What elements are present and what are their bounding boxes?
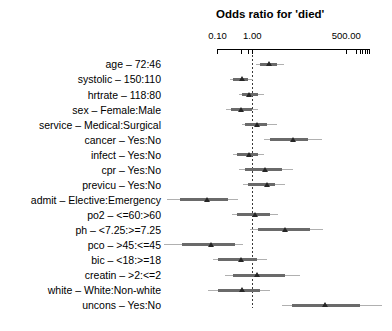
estimate-marker bbox=[246, 152, 252, 157]
row-label: cpr – Yes:No bbox=[0, 164, 161, 176]
axis-tick bbox=[252, 49, 253, 54]
row-label: pco – >45:<=45 bbox=[0, 239, 161, 251]
estimate-marker bbox=[290, 137, 296, 142]
row-label: systolic – 150:110 bbox=[0, 73, 161, 85]
estimate-marker bbox=[266, 61, 272, 66]
axis-tick-label: 500.00 bbox=[321, 30, 371, 41]
row-label: uncons – Yes:No bbox=[0, 299, 161, 311]
row-label: cancer – Yes:No bbox=[0, 134, 161, 146]
estimate-marker bbox=[239, 287, 245, 292]
axis-tick bbox=[241, 49, 242, 54]
axis-tick bbox=[248, 49, 249, 54]
row-label: admit – Elective:Emergency bbox=[0, 194, 161, 206]
estimate-marker bbox=[264, 182, 270, 187]
estimate-marker bbox=[204, 197, 210, 202]
row-label: white – White:Non-white bbox=[0, 284, 161, 296]
forest-plot: Odds ratio for 'died' 0.101.00500.00 age… bbox=[0, 0, 392, 331]
row-label: infect – Yes:No bbox=[0, 149, 161, 161]
axis-tick bbox=[356, 49, 357, 54]
estimate-marker bbox=[208, 242, 214, 247]
axis-tick bbox=[369, 49, 370, 54]
estimate-marker bbox=[262, 167, 268, 172]
estimate-marker bbox=[282, 227, 288, 232]
estimate-marker bbox=[238, 257, 244, 262]
row-label: sex – Female:Male bbox=[0, 104, 161, 116]
estimate-marker bbox=[246, 92, 252, 97]
chart-title: Odds ratio for 'died' bbox=[216, 8, 324, 20]
row-label: age – 72:46 bbox=[0, 58, 161, 70]
axis-tick bbox=[362, 49, 363, 54]
estimate-marker bbox=[238, 107, 244, 112]
estimate-marker bbox=[239, 76, 245, 81]
row-label: creatin – >2:<=2 bbox=[0, 269, 161, 281]
estimate-marker bbox=[254, 272, 260, 277]
row-label: previcu – Yes:No bbox=[0, 179, 161, 191]
axis-tick bbox=[360, 49, 361, 54]
axis-tick bbox=[217, 49, 218, 54]
row-label: hrtrate – 118:80 bbox=[0, 89, 161, 101]
estimate-marker bbox=[322, 302, 328, 307]
row-label: bic – <18:>=18 bbox=[0, 254, 161, 266]
axis-tick bbox=[365, 49, 366, 54]
axis-tick bbox=[346, 49, 347, 54]
axis-tick-label: 1.00 bbox=[227, 30, 277, 41]
row-label: ph – <7.25:>=7.25 bbox=[0, 224, 161, 236]
row-label: po2 – <=60:>60 bbox=[0, 209, 161, 221]
row-label: service – Medical:Surgical bbox=[0, 119, 161, 131]
estimate-marker bbox=[252, 212, 258, 217]
estimate-marker bbox=[254, 122, 260, 127]
ci-inner bbox=[248, 183, 275, 186]
